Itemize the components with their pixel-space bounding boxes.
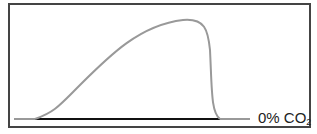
baseline-label: 0% CO2 [258,109,311,126]
co2-curve [35,20,220,119]
